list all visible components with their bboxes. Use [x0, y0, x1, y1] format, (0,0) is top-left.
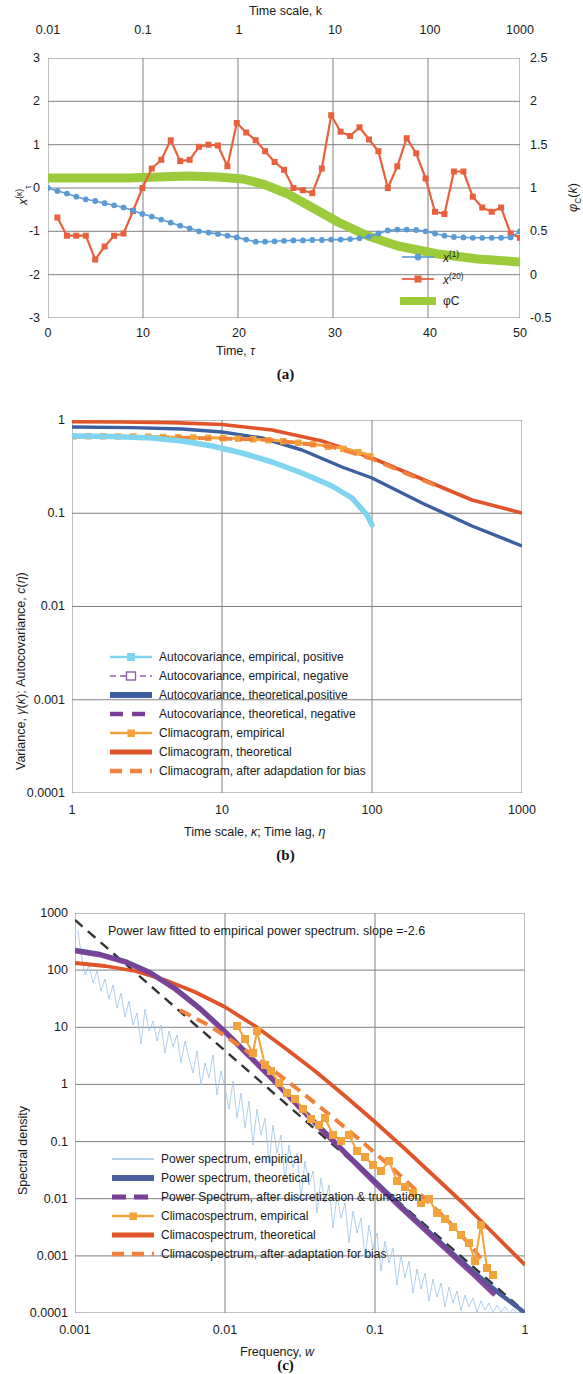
panel-a-left-tick-5: -2 [10, 268, 40, 282]
panel-b-legend-label-1: Autocovariance, empirical, negative [159, 670, 348, 682]
panel-c-caption: (c) [0, 1357, 571, 1374]
panel-a-caption: (a) [0, 366, 571, 383]
panel-b-x-tick-3: 1000 [508, 803, 536, 817]
legend-key-line-marker-circle-blue [400, 250, 436, 264]
panel-a-top-tick-4: 100 [420, 23, 441, 37]
panel-a-left-tick-1: 2 [10, 94, 40, 108]
panel-a-right-axis-title: φC(k) [566, 183, 583, 212]
panel-b-caption: (b) [0, 847, 571, 864]
panel-c-legend-item-4[interactable]: Climacospectrum, theoretical [112, 1225, 421, 1244]
panel-b-legend-label-5: Climacogram, theoretical [159, 746, 292, 758]
panel-c-legend-label-5: Climacospectrum, after adaptation for bi… [161, 1248, 386, 1260]
legend-key-line-marker-square-lightorange-c [112, 1209, 154, 1223]
legend-key-dashed-marker-open-purple [110, 669, 152, 683]
panel-b-legend-item-4[interactable]: Climacogram, empirical [110, 723, 366, 742]
panel-a-right-tick-6: -0.5 [530, 311, 552, 325]
panel-c-y-tick-2: 10 [6, 1020, 68, 1034]
panel-a-legend-label-0: x(1) [443, 251, 459, 264]
legend-key-line-marker-square-lightblue [110, 650, 152, 664]
panel-b-legend-item-1[interactable]: Autocovariance, empirical, negative [110, 666, 366, 685]
legend-key-thick-line-darkorange-c [112, 1228, 154, 1242]
panel-a-top-axis-title: Time scale, k [0, 4, 571, 18]
legend-key-line-marker-square-orange [400, 272, 436, 286]
legend-key-thick-line-green [400, 294, 436, 308]
panel-c-y-tick-3: 1 [6, 1077, 68, 1091]
panel-c-x-tick-3: 1 [522, 1323, 529, 1337]
panel-c-legend-label-0: Power spectrum, empirical [161, 1153, 302, 1165]
panel-a-legend-item-1[interactable]: x(20) [400, 268, 464, 290]
panel-a-top-tick-5: 1000 [506, 23, 534, 37]
panel-b-legend-item-0[interactable]: Autocovariance, empirical, positive [110, 647, 366, 666]
legend-key-thick-dashed-purple-c [112, 1190, 154, 1204]
panel-a-legend-item-2[interactable]: φC [400, 290, 464, 312]
legend-key-thick-line-darkorange [110, 745, 152, 759]
legend-key-thick-dashed-orange [110, 764, 152, 778]
panel-b-legend-item-6[interactable]: Climacogram, after adapdation for bias [110, 761, 366, 780]
panel-a-top-tick-0: 0.01 [36, 23, 60, 37]
panel-b-x-tick-1: 10 [215, 803, 229, 817]
panel-b-legend: Autocovariance, empirical, positive Auto… [110, 647, 366, 780]
panel-b-legend-label-4: Climacogram, empirical [159, 727, 284, 739]
panel-a-left-tick-2: 1 [10, 138, 40, 152]
panel-b-y-axis-title: Variance, γ(κ); Autocovariance, c(η) [14, 572, 28, 770]
panel-c-legend-item-1[interactable]: Power spectrum, theoretical [112, 1168, 421, 1187]
panel-c-legend-item-0[interactable]: Power spectrum, empirical [112, 1149, 421, 1168]
legend-key-thick-dashed-orange-c [112, 1247, 154, 1261]
panel-b-y-tick-4: 0.0001 [10, 786, 65, 800]
panel-b-legend-label-6: Climacogram, after adapdation for bias [159, 765, 366, 777]
panel-a-legend-label-2: φC [443, 295, 459, 307]
panel-c-x-tick-2: 0.1 [366, 1323, 383, 1337]
panel-c-y-tick-6: 0.001 [6, 1249, 68, 1263]
legend-key-thick-line-indigo [112, 1171, 154, 1185]
panel-a-left-tick-4: -1 [10, 224, 40, 238]
panel-b-x-tick-0: 1 [69, 803, 76, 817]
panel-c-legend-label-1: Power spectrum, theoretical [161, 1172, 310, 1184]
panel-c-y-tick-0: 1000 [6, 906, 68, 920]
panel-a-right-tick-4: 0.5 [530, 224, 547, 238]
panel-c-y-axis-title: Spectral density [16, 1106, 30, 1195]
panel-c: 1000 100 10 1 0.1 0.01 0.001 0.0001 0.00… [0, 895, 571, 1368]
panel-a-legend-item-0[interactable]: x(1) [400, 246, 464, 268]
panel-a-right-tick-2: 1.5 [530, 138, 547, 152]
panel-b-y-tick-1: 0.1 [10, 506, 65, 520]
panel-b: 1 0.1 0.01 0.001 0.0001 1 10 100 1000 Ti… [0, 395, 571, 895]
panel-c-legend-item-5[interactable]: Climacospectrum, after adaptation for bi… [112, 1244, 421, 1263]
panel-a: Time scale, k 0.01 0.1 1 10 100 1000 3 2… [0, 0, 571, 395]
panel-c-legend-label-2: Power Spectrum, after discretization & t… [161, 1191, 421, 1203]
panel-c-y-tick-7: 0.0001 [6, 1306, 68, 1320]
panel-b-legend-item-3[interactable]: Autocovariance, theoretical, negative [110, 704, 366, 723]
panel-b-legend-label-2: Autocovariance, theoretical,positive [159, 689, 348, 701]
panel-a-bottom-axis-title: Time, τ [216, 344, 255, 358]
panel-c-legend-item-2[interactable]: Power Spectrum, after discretization & t… [112, 1187, 421, 1206]
panel-a-bottom-tick-3: 30 [328, 326, 342, 340]
legend-key-thin-line-lightblue [112, 1152, 154, 1166]
panel-b-x-tick-2: 100 [362, 803, 383, 817]
panel-b-legend-item-2[interactable]: Autocovariance, theoretical,positive [110, 685, 366, 704]
panel-a-left-tick-0: 3 [10, 51, 40, 65]
panel-a-bottom-tick-1: 10 [136, 326, 150, 340]
panel-c-x-tick-1: 0.01 [213, 1323, 237, 1337]
legend-key-thick-dashed-purple [110, 707, 152, 721]
panel-a-top-tick-1: 0.1 [134, 23, 151, 37]
panel-a-bottom-tick-0: 0 [45, 326, 52, 340]
panel-a-bottom-tick-2: 20 [232, 326, 246, 340]
panel-c-x-tick-0: 0.001 [59, 1323, 90, 1337]
panel-b-x-axis-title: Time scale, κ; Time lag, η [184, 825, 325, 839]
panel-c-annotation: Power law fitted to empirical power spec… [108, 924, 425, 938]
panel-a-legend: x(1) x(20) φC [400, 246, 464, 312]
legend-key-thick-line-darkblue [110, 688, 152, 702]
panel-c-legend-label-4: Climacospectrum, theoretical [161, 1229, 316, 1241]
panel-b-legend-label-0: Autocovariance, empirical, positive [159, 651, 344, 663]
panel-c-legend-item-3[interactable]: Climacospectrum, empirical [112, 1206, 421, 1225]
panel-a-bottom-tick-5: 50 [513, 326, 527, 340]
panel-c-y-tick-1: 100 [6, 963, 68, 977]
panel-b-legend-label-3: Autocovariance, theoretical, negative [159, 708, 356, 720]
panel-a-top-tick-2: 1 [236, 23, 243, 37]
panel-a-right-tick-5: 0 [530, 268, 537, 282]
panel-a-top-tick-3: 10 [328, 23, 342, 37]
panel-a-right-tick-1: 2 [530, 94, 537, 108]
panel-c-legend-label-3: Climacospectrum, empirical [161, 1210, 308, 1222]
panel-a-bottom-tick-4: 40 [423, 326, 437, 340]
panel-b-legend-item-5[interactable]: Climacogram, theoretical [110, 742, 366, 761]
